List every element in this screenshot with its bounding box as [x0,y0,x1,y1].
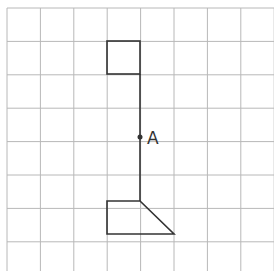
grid-diagram [0,0,274,271]
point-a [138,135,143,140]
top-square [107,41,140,74]
point-a-label: A [147,128,159,148]
